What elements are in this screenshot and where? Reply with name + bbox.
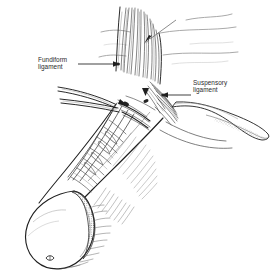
anatomy-line-drawing — [0, 0, 278, 279]
label-suspensory-ligament: Suspensory ligament — [193, 79, 227, 94]
label-fundiform-ligament: Fundiform ligament — [38, 56, 67, 71]
anatomical-figure: Fundiform ligament Suspensory ligament — [0, 0, 278, 279]
